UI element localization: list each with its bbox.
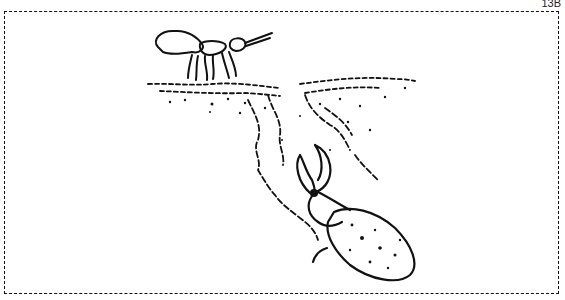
insect-on-surface [156, 31, 272, 80]
illustration [0, 0, 565, 300]
beetle-in-burrow [297, 145, 414, 280]
beetle-spots [349, 224, 401, 270]
ground-surface [148, 78, 415, 96]
soil-dots [169, 87, 406, 151]
